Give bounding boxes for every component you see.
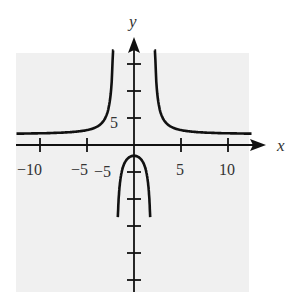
y-tick-label-5: 5	[110, 114, 118, 131]
plot-area: x y 5 −5 −10 −5 5 10	[0, 0, 293, 292]
x-axis-label: x	[276, 136, 285, 155]
y-axis-label: y	[127, 12, 137, 31]
x-tick-label-5: 5	[176, 161, 184, 178]
y-tick-label-neg5: −5	[94, 163, 111, 180]
x-tick-label-10: 10	[219, 161, 235, 178]
x-tick-label-neg5: −5	[71, 161, 88, 178]
x-tick-label-neg10: −10	[17, 161, 42, 178]
